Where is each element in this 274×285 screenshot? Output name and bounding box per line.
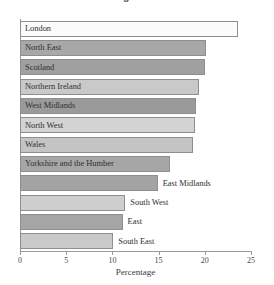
bar-category-label: North East (25, 38, 61, 57)
bar-category-label: East Midlands (163, 174, 211, 193)
bar-category-label: West Midlands (25, 96, 75, 115)
bar-category-label: Scotland (25, 58, 54, 77)
x-axis-line (20, 251, 251, 252)
x-axis-tick (251, 251, 252, 255)
bar (20, 195, 125, 211)
x-axis-tick (205, 251, 206, 255)
bar-row: East (20, 212, 251, 231)
bar-row: Scotland (20, 58, 251, 77)
bar-category-label: Wales (25, 135, 45, 154)
bar-row: South West (20, 193, 251, 212)
bar-category-label: Yorkshire and the Humber (25, 154, 114, 173)
x-axis-tick (20, 251, 21, 255)
x-axis-tick-label: 20 (201, 256, 209, 265)
bar (20, 175, 158, 191)
x-axis-tick (159, 251, 160, 255)
bar-row: South East (20, 232, 251, 251)
x-axis-tick-label: 25 (247, 256, 255, 265)
bar-category-label: Northern Ireland (25, 77, 81, 96)
bar-chart-figure: Percentage of Residents LondonNorth East… (0, 0, 274, 285)
bar-category-label: London (25, 19, 51, 38)
bar-category-label: South West (130, 193, 168, 212)
bar-row: West Midlands (20, 96, 251, 115)
bar-row: Wales (20, 135, 251, 154)
x-axis-tick-label: 0 (18, 256, 22, 265)
bar-category-label: East (128, 212, 142, 231)
x-axis-title: Percentage (20, 267, 251, 277)
bar (20, 21, 238, 37)
x-axis-tick (66, 251, 67, 255)
x-axis-tick-label: 5 (64, 256, 68, 265)
bar-row: Northern Ireland (20, 77, 251, 96)
bar (20, 214, 123, 230)
bar-category-label: South East (118, 232, 154, 251)
bar-category-label: North West (25, 116, 63, 135)
bar (20, 233, 113, 249)
x-axis-tick (112, 251, 113, 255)
bar (20, 137, 193, 153)
bar-row: London (20, 19, 251, 38)
bar-row: East Midlands (20, 174, 251, 193)
x-axis-tick-label: 15 (155, 256, 163, 265)
chart-title: Percentage of Residents (0, 0, 274, 3)
bar-row: North East (20, 38, 251, 57)
x-axis-tick-label: 10 (108, 256, 116, 265)
bar-row: Yorkshire and the Humber (20, 154, 251, 173)
bar-row: North West (20, 116, 251, 135)
